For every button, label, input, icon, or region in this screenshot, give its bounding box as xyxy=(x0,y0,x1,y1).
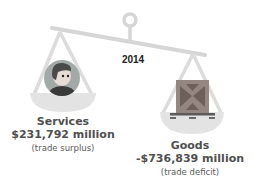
services-label-group: Services $231,792 million (trade surplus… xyxy=(3,115,123,154)
shipping-crate-icon xyxy=(170,80,215,119)
goods-amount: -$736,839 million xyxy=(130,152,250,166)
goods-note: (trade deficit) xyxy=(130,166,250,178)
scale-ring-icon xyxy=(124,14,136,26)
goods-title: Goods xyxy=(130,139,250,152)
services-title: Services xyxy=(3,115,123,128)
year-label: 2014 xyxy=(113,54,153,65)
services-note: (trade surplus) xyxy=(3,142,123,154)
services-amount: $231,792 million xyxy=(3,128,123,142)
goods-label-group: Goods -$736,839 million (trade deficit) xyxy=(130,139,250,178)
